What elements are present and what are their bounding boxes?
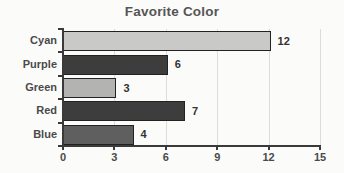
- x-axis-tick-15: [319, 146, 321, 150]
- bar-red: [63, 101, 185, 121]
- x-axis-tick-12: [268, 146, 270, 150]
- x-axis-tick-6: [165, 146, 167, 150]
- x-tick-label-6: 6: [163, 151, 169, 163]
- bar-cyan: [63, 31, 271, 51]
- x-tick-label-12: 12: [262, 151, 274, 163]
- y-axis-tick: [58, 98, 63, 100]
- y-axis-tick: [58, 75, 63, 77]
- value-label-blue: 4: [141, 129, 147, 140]
- x-axis-line: [61, 145, 321, 147]
- x-tick-label-15: 15: [314, 151, 326, 163]
- y-axis-tick: [58, 28, 63, 30]
- favorite-color-bar-chart: Favorite Color 126374 CyanPurpleGreenRed…: [0, 0, 344, 173]
- y-axis-tick: [58, 51, 63, 53]
- gridline-x-15: [320, 29, 321, 146]
- x-axis-tick-0: [62, 146, 64, 150]
- plot-area: 126374: [63, 29, 320, 146]
- value-label-purple: 6: [175, 59, 181, 70]
- x-axis-tick-3: [113, 146, 115, 150]
- y-axis-tick: [58, 122, 63, 124]
- chart-title: Favorite Color: [0, 4, 344, 19]
- bar-blue: [63, 125, 134, 145]
- bar-green: [63, 78, 116, 98]
- value-label-red: 7: [192, 106, 198, 117]
- category-label-purple: Purple: [0, 59, 57, 70]
- value-label-green: 3: [123, 83, 129, 94]
- category-label-green: Green: [0, 82, 57, 93]
- category-label-blue: Blue: [0, 129, 57, 140]
- y-axis-line: [62, 28, 64, 147]
- x-tick-label-3: 3: [111, 151, 117, 163]
- x-axis-tick-9: [216, 146, 218, 150]
- x-tick-label-0: 0: [60, 151, 66, 163]
- x-tick-label-9: 9: [214, 151, 220, 163]
- category-label-cyan: Cyan: [0, 35, 57, 46]
- category-label-red: Red: [0, 105, 57, 116]
- value-label-cyan: 12: [278, 36, 290, 47]
- bar-purple: [63, 55, 168, 75]
